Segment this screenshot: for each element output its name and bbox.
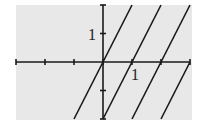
chart: 1 1 [0, 0, 200, 131]
x-tick-label-1: 1 [131, 66, 139, 83]
y-tick-label-1: 1 [88, 26, 96, 43]
